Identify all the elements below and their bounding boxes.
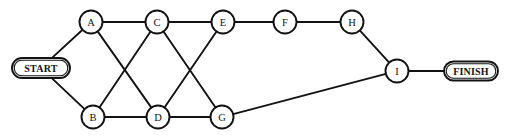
graph-canvas: STARTABCDEFGHIFINISH	[0, 0, 507, 140]
nodes-layer: STARTABCDEFGHIFINISH	[12, 11, 498, 129]
graph-node-a[interactable]: A	[80, 11, 103, 34]
node-circle-d	[147, 106, 170, 129]
graph-node-i[interactable]: I	[386, 60, 409, 83]
terminal-outline-start	[12, 58, 70, 78]
node-circle-i	[386, 60, 409, 83]
node-circle-c	[146, 11, 169, 34]
node-circle-g	[211, 106, 234, 129]
graph-node-c[interactable]: C	[146, 11, 169, 34]
graph-node-e[interactable]: E	[212, 11, 235, 34]
node-circle-h	[341, 11, 364, 34]
graph-edge-g-i	[233, 74, 386, 114]
node-circle-e	[212, 11, 235, 34]
node-circle-a	[80, 11, 103, 34]
graph-edge-start-a	[51, 30, 82, 59]
node-circle-f	[274, 11, 297, 34]
graph-node-start[interactable]: START	[12, 58, 70, 78]
node-circle-b	[82, 106, 105, 129]
graph-node-b[interactable]: B	[82, 106, 105, 129]
graph-node-g[interactable]: G	[211, 106, 234, 129]
graph-node-d[interactable]: D	[147, 106, 170, 129]
graph-node-finish[interactable]: FINISH	[444, 62, 498, 81]
graph-diagram: STARTABCDEFGHIFINISH	[0, 0, 507, 140]
graph-edge-start-b	[51, 77, 85, 109]
graph-edge-h-i	[360, 30, 389, 62]
graph-node-f[interactable]: F	[274, 11, 297, 34]
graph-node-h[interactable]: H	[341, 11, 364, 34]
